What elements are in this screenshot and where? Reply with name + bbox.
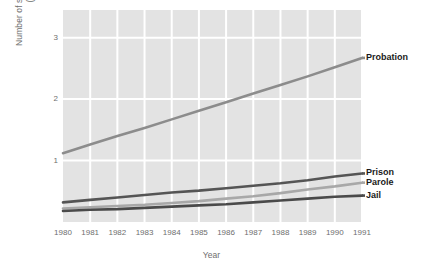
x-axis-title: Year bbox=[0, 250, 423, 260]
series-label-parole: Parole bbox=[366, 177, 394, 187]
series-label-probation: Probation bbox=[366, 52, 408, 62]
x-tick-label: 1988 bbox=[265, 228, 295, 237]
y-axis-title-line2: (millions) bbox=[25, 0, 36, 60]
series-label-jail: Jail bbox=[366, 190, 381, 200]
line-chart: Number of sentenced offenders (millions)… bbox=[0, 0, 423, 274]
y-tick-label: 3 bbox=[36, 33, 58, 42]
y-tick-label: 1 bbox=[36, 156, 58, 165]
y-tick-label: 2 bbox=[36, 94, 58, 103]
y-axis-title-line1: Number of sentenced offenders bbox=[14, 0, 25, 60]
x-tick-label: 1986 bbox=[211, 228, 241, 237]
y-axis-title: Number of sentenced offenders (millions) bbox=[14, 0, 36, 60]
x-tick-label: 1985 bbox=[184, 228, 214, 237]
x-tick-label: 1989 bbox=[293, 228, 323, 237]
x-tick-label: 1991 bbox=[347, 228, 377, 237]
x-tick-label: 1980 bbox=[48, 228, 78, 237]
x-tick-label: 1990 bbox=[320, 228, 350, 237]
x-tick-label: 1981 bbox=[75, 228, 105, 237]
x-tick-label: 1984 bbox=[157, 228, 187, 237]
x-tick-label: 1982 bbox=[102, 228, 132, 237]
x-tick-label: 1987 bbox=[238, 228, 268, 237]
x-tick-label: 1983 bbox=[130, 228, 160, 237]
